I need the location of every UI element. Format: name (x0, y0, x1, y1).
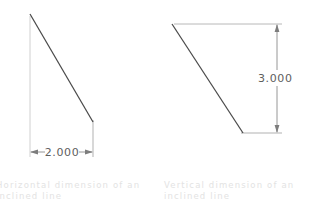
arrowhead-right (85, 150, 93, 155)
caption-vertical-dimension: Vertical dimension of an inclined line (164, 180, 309, 202)
drawing-canvas: 2.000 3.000 Horizontal dimension of an i… (0, 0, 309, 213)
arrowhead-left (30, 150, 38, 155)
inclined-line (172, 24, 243, 133)
figure-vertical-dimension: 3.000 (172, 24, 304, 133)
figure-horizontal-dimension: 2.000 (30, 14, 93, 160)
arrowhead-top (275, 24, 280, 32)
inclined-line (30, 14, 93, 122)
dimension-value-vertical: 3.000 (258, 72, 293, 85)
caption-horizontal-dimension: Horizontal dimension of an inclined line (0, 180, 148, 202)
dimension-value-horizontal: 2.000 (45, 146, 80, 159)
arrowhead-bottom (275, 125, 280, 133)
